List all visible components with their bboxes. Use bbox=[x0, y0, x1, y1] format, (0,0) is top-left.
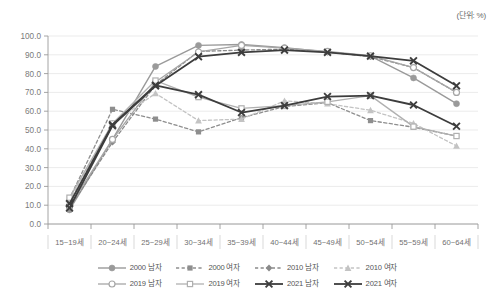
legend-label: 2019 남자 bbox=[130, 277, 162, 288]
data-point-marker bbox=[188, 281, 193, 286]
legend-row-bottom: 2019 남자2019 여자2021 남자2021 여자 bbox=[0, 274, 494, 290]
legend-item-7[interactable]: 2021 남자 bbox=[254, 276, 319, 288]
y-tick-label: 30.0 bbox=[25, 164, 41, 173]
legend-item-1[interactable]: 2000 남자 bbox=[97, 260, 162, 272]
y-tick-label: 50.0 bbox=[25, 126, 41, 135]
series-line bbox=[70, 44, 457, 209]
data-point-marker bbox=[153, 116, 158, 121]
line-chart-container: (단위: %) 0.010.020.030.040.050.060.070.08… bbox=[0, 0, 494, 307]
legend-item-6[interactable]: 2019 여자 bbox=[175, 276, 240, 288]
y-axis-tick-labels: 0.010.020.030.040.050.060.070.080.090.01… bbox=[21, 32, 42, 229]
y-tick-label: 60.0 bbox=[25, 107, 41, 116]
series-line bbox=[70, 85, 457, 203]
data-point-marker bbox=[110, 107, 115, 112]
series-line bbox=[70, 103, 457, 199]
y-tick-label: 20.0 bbox=[25, 182, 41, 191]
x-tick-label: 40~44세 bbox=[270, 238, 298, 247]
x-tick-label: 30~34세 bbox=[184, 238, 212, 247]
legend-label: 2021 남자 bbox=[287, 277, 319, 288]
data-point-marker bbox=[110, 136, 116, 142]
data-point-marker bbox=[239, 42, 245, 48]
data-point-marker bbox=[153, 63, 159, 69]
legend-swatch bbox=[254, 260, 284, 272]
legend-label: 2010 여자 bbox=[366, 261, 398, 272]
data-series bbox=[66, 41, 460, 212]
data-point-marker bbox=[266, 265, 273, 272]
y-tick-label: 80.0 bbox=[25, 70, 41, 79]
data-point-marker bbox=[411, 65, 417, 71]
legend-swatch bbox=[97, 260, 127, 272]
legend-row-top: 2000 남자2000 여자2010 남자2010 여자 bbox=[0, 258, 494, 274]
chart-svg: 0.010.020.030.040.050.060.070.080.090.01… bbox=[0, 24, 494, 236]
data-point-marker bbox=[411, 124, 416, 129]
chart-legend: 2000 남자2000 여자2010 남자2010 여자 2019 남자2019… bbox=[0, 258, 494, 304]
y-tick-label: 100.0 bbox=[21, 32, 42, 41]
legend-swatch bbox=[175, 260, 205, 272]
data-point-marker bbox=[196, 42, 202, 48]
x-tick-label: 55~59세 bbox=[399, 238, 427, 247]
x-tick-label: 25~29세 bbox=[141, 238, 169, 247]
series-line bbox=[70, 81, 457, 198]
series-8 bbox=[66, 82, 460, 207]
legend-item-5[interactable]: 2019 남자 bbox=[97, 276, 162, 288]
data-point-marker bbox=[152, 90, 159, 96]
legend-label: 2019 여자 bbox=[208, 277, 240, 288]
x-axis-tick-label-group: 15~19세20~24세25~29세30~34세35~39세40~44세45~4… bbox=[48, 235, 478, 249]
series-line bbox=[70, 49, 457, 208]
data-point-marker bbox=[454, 89, 460, 95]
x-tick-label: 50~54세 bbox=[356, 238, 384, 247]
data-point-marker bbox=[109, 281, 115, 287]
legend-swatch bbox=[333, 260, 363, 272]
x-tick-label: 45~49세 bbox=[313, 238, 341, 247]
y-tick-label: 0.0 bbox=[30, 220, 42, 229]
legend-item-2[interactable]: 2000 여자 bbox=[175, 260, 240, 272]
legend-label: 2000 여자 bbox=[208, 261, 240, 272]
x-axis-labels: 15~19세20~24세25~29세30~34세35~39세40~44세45~4… bbox=[0, 234, 494, 260]
data-point-marker bbox=[368, 118, 373, 123]
y-tick-label: 70.0 bbox=[25, 88, 41, 97]
unit-label: (단위: %) bbox=[457, 9, 487, 20]
series-6 bbox=[67, 78, 459, 200]
data-point-marker bbox=[453, 82, 460, 89]
legend-item-3[interactable]: 2010 남자 bbox=[254, 260, 319, 272]
legend-label: 2021 여자 bbox=[366, 277, 398, 288]
x-tick-label: 35~39세 bbox=[227, 238, 255, 247]
x-tick-label: 20~24세 bbox=[98, 238, 126, 247]
data-point-marker bbox=[188, 265, 193, 270]
data-point-marker bbox=[453, 143, 460, 149]
data-point-marker bbox=[196, 129, 201, 134]
legend-label: 2000 남자 bbox=[130, 261, 162, 272]
legend-swatch bbox=[333, 276, 363, 288]
plot-area: 0.010.020.030.040.050.060.070.080.090.01… bbox=[0, 24, 494, 236]
legend-item-4[interactable]: 2010 여자 bbox=[333, 260, 398, 272]
data-point-marker bbox=[411, 75, 417, 81]
legend-item-8[interactable]: 2021 여자 bbox=[333, 276, 398, 288]
y-tick-label: 90.0 bbox=[25, 51, 41, 60]
legend-swatch bbox=[97, 276, 127, 288]
data-point-marker bbox=[109, 265, 115, 271]
series-1 bbox=[67, 41, 460, 212]
data-point-marker bbox=[453, 123, 460, 130]
x-tick-label: 60~64세 bbox=[442, 238, 470, 247]
y-tick-label: 40.0 bbox=[25, 145, 41, 154]
data-point-marker bbox=[325, 99, 330, 104]
data-point-marker bbox=[454, 101, 460, 107]
legend-swatch bbox=[254, 276, 284, 288]
legend-label: 2010 남자 bbox=[287, 261, 319, 272]
x-tick-label: 15~19세 bbox=[55, 238, 83, 247]
data-point-marker bbox=[454, 133, 459, 138]
legend-swatch bbox=[175, 276, 205, 288]
y-tick-label: 10.0 bbox=[25, 201, 41, 210]
